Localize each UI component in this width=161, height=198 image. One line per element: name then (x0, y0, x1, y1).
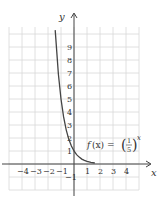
svg-text:−1: −1 (65, 173, 77, 182)
svg-text:4: 4 (67, 108, 72, 117)
svg-text:1: 1 (67, 147, 72, 156)
svg-text:(: ( (121, 137, 126, 153)
tick-labels: −4−3−2−11234−1123456789 (17, 43, 129, 182)
svg-text:1: 1 (127, 137, 131, 145)
svg-text:5: 5 (127, 146, 131, 154)
svg-text:5: 5 (67, 95, 72, 104)
svg-text:x: x (137, 134, 141, 142)
svg-text:4: 4 (124, 167, 129, 176)
svg-text:(x) =: (x) = (92, 140, 115, 150)
exponential-graph: −4−3−2−11234−1123456789 y x f (x) = ( 1 … (0, 0, 161, 198)
svg-text:−3: −3 (30, 167, 42, 176)
svg-text:−2: −2 (43, 167, 55, 176)
x-axis-label: x (151, 167, 157, 178)
svg-text:7: 7 (67, 69, 72, 78)
svg-text:3: 3 (67, 121, 72, 130)
svg-text:6: 6 (67, 82, 72, 91)
svg-text:3: 3 (111, 167, 116, 176)
svg-text:8: 8 (67, 56, 72, 65)
svg-text:9: 9 (67, 43, 72, 52)
svg-text:−4: −4 (17, 167, 29, 176)
svg-text:1: 1 (85, 167, 90, 176)
y-axis-label: y (58, 11, 65, 22)
svg-text:2: 2 (98, 167, 103, 176)
